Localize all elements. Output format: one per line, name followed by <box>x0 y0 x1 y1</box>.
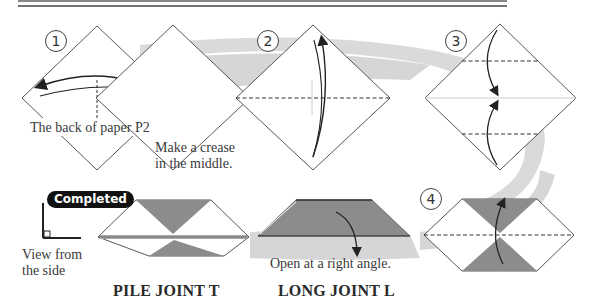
step-4-diagram <box>424 199 574 271</box>
side-view-label-line-2: the side <box>22 263 82 279</box>
side-view-label-line-1: View from <box>22 247 82 263</box>
long-joint-title: LONG JOINT L <box>278 282 395 300</box>
step-4-number: 4 <box>420 188 442 210</box>
step-2-caption: Make a crease in the middle. <box>155 140 235 172</box>
step-2-caption-line-2: in the middle. <box>155 156 235 172</box>
completed-badge: Completed <box>47 191 134 208</box>
side-view-label: View from the side <box>22 247 82 279</box>
side-view-icon <box>43 203 81 238</box>
step-2-number: 2 <box>257 30 279 52</box>
long-joint-instruction: Open at a right angle. <box>270 256 391 272</box>
step-3-number: 3 <box>445 30 467 52</box>
step-2-caption-line-1: Make a crease <box>155 140 235 156</box>
step-1-caption: The back of paper P2 <box>30 120 150 136</box>
step-1-number: 1 <box>45 30 67 52</box>
header-rule <box>18 1 507 6</box>
pile-joint-title: PILE JOINT T <box>113 282 220 300</box>
